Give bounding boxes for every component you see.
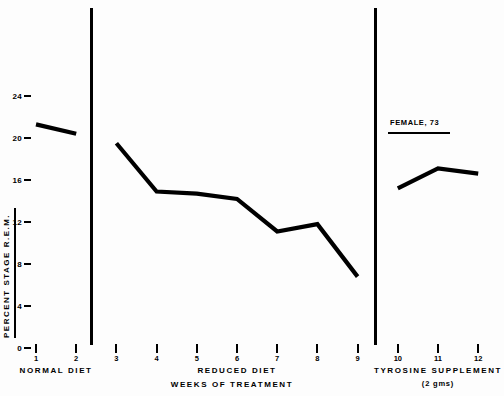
phase-label: TYROSINE SUPPLEMENT <box>374 366 502 375</box>
y-tick-mark <box>24 179 31 181</box>
x-tick-mark <box>276 344 278 353</box>
x-tick-label: 1 <box>34 354 38 363</box>
x-tick-mark <box>236 344 238 353</box>
x-tick-mark <box>115 344 117 353</box>
x-tick-mark <box>437 344 439 353</box>
y-tick-mark <box>24 305 31 307</box>
y-tick-mark <box>24 221 31 223</box>
x-tick-mark <box>75 344 77 353</box>
phase-label: NORMAL DIET <box>20 366 93 375</box>
x-tick-label: 8 <box>315 354 319 363</box>
y-tick-label: 0 <box>17 344 22 353</box>
x-tick-mark <box>357 344 359 353</box>
x-tick-label: 2 <box>74 354 78 363</box>
rem-sleep-chart: 04812162024 PERCENT STAGE R.E.M. FEMALE,… <box>0 0 504 396</box>
subject-annotation-underline <box>388 132 450 134</box>
x-tick-mark <box>196 344 198 353</box>
x-tick-label: 11 <box>434 354 442 363</box>
x-tick-mark <box>397 344 399 353</box>
y-tick-mark <box>24 347 31 349</box>
x-tick-label: 4 <box>155 354 159 363</box>
x-tick-label: 9 <box>356 354 360 363</box>
y-tick-mark <box>24 263 31 265</box>
y-tick-label: 24 <box>13 92 23 101</box>
y-axis-label: PERCENT STAGE R.E.M. <box>2 208 11 338</box>
x-tick-mark <box>316 344 318 353</box>
x-tick-label: 12 <box>474 354 482 363</box>
x-tick-mark <box>477 344 479 353</box>
x-tick-mark <box>156 344 158 353</box>
y-tick-label: 16 <box>13 176 23 185</box>
panel-divider-left <box>90 8 93 345</box>
series-line <box>116 143 357 276</box>
x-tick-label: 7 <box>275 354 279 363</box>
y-tick-label: 8 <box>17 260 22 269</box>
x-tick-label: 10 <box>394 354 402 363</box>
y-tick-mark <box>24 95 31 97</box>
series-line <box>398 168 478 188</box>
y-tick-mark <box>24 137 31 139</box>
x-tick-mark <box>35 344 37 353</box>
x-axis-title: WEEKS OF TREATMENT <box>171 380 293 389</box>
phase-label: REDUCED DIET <box>197 366 276 375</box>
y-axis-rule <box>14 208 16 338</box>
series-line <box>36 124 76 133</box>
phase-sublabel: (2 gms) <box>422 379 454 388</box>
data-lines <box>0 0 504 396</box>
panel-divider-right <box>374 8 377 345</box>
subject-annotation: FEMALE, 73 <box>390 118 439 127</box>
x-tick-label: 6 <box>235 354 239 363</box>
y-tick-label: 4 <box>17 302 22 311</box>
y-tick-label: 20 <box>13 134 23 143</box>
x-tick-label: 5 <box>195 354 199 363</box>
x-tick-label: 3 <box>114 354 118 363</box>
